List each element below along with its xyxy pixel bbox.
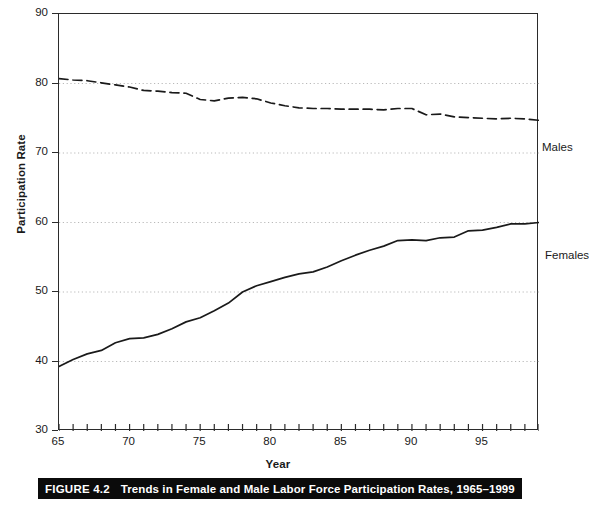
- x-axis-tick-label: 85: [334, 436, 347, 448]
- x-axis-tick-label: 80: [263, 436, 276, 448]
- series-line-females: [59, 223, 539, 367]
- y-axis-tick-label: 60: [35, 216, 48, 228]
- x-axis-title: Year: [0, 458, 556, 470]
- plot-area: Males Females: [58, 13, 538, 430]
- y-axis: 30405060708090: [0, 0, 58, 443]
- x-axis-tick-label: 90: [405, 436, 418, 448]
- series-label-females: Females: [545, 249, 589, 261]
- plot-svg: [59, 14, 539, 431]
- y-axis-tick-label: 40: [35, 355, 48, 367]
- gridlines: [59, 84, 539, 362]
- x-axis-tick-label: 65: [52, 436, 65, 448]
- figure-caption-number: FIGURE 4.2: [45, 483, 110, 495]
- figure-caption-text: Trends in Female and Male Labor Force Pa…: [121, 483, 515, 495]
- x-axis-tick-label: 70: [122, 436, 135, 448]
- y-axis-tick-label: 90: [35, 7, 48, 19]
- y-axis-tick-label: 70: [35, 146, 48, 158]
- y-axis-tick-label: 50: [35, 285, 48, 297]
- y-axis-tick-mark: [52, 430, 58, 431]
- x-axis-tick-label: 95: [475, 436, 488, 448]
- x-axis-tick-label: 75: [193, 436, 206, 448]
- series-label-males: Males: [542, 141, 573, 153]
- y-axis-tick-label: 30: [35, 424, 48, 436]
- figure-caption-bar: FIGURE 4.2 Trends in Female and Male Lab…: [38, 478, 522, 499]
- series-line-males: [59, 79, 539, 121]
- y-axis-tick-label: 80: [35, 77, 48, 89]
- x-axis-tick-marks: [59, 424, 539, 431]
- x-axis: 65707580859095: [0, 436, 556, 454]
- y-axis-title: Participation Rate: [15, 129, 27, 239]
